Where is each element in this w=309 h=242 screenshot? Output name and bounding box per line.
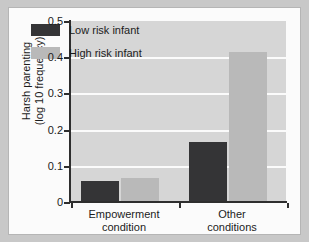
y-axis-tick-label: 0: [33, 197, 63, 208]
y-axis-tick-label: 0.1: [33, 161, 63, 172]
y-axis-tick: [64, 166, 70, 168]
legend-label-high-risk: High risk infant: [69, 47, 142, 59]
x-axis-category-label: Empowermentcondition: [70, 208, 178, 234]
bar-chart: Harsh parenting (log 10 frequency) Low r…: [9, 8, 302, 236]
x-axis-category-label-line1: Other: [178, 208, 286, 221]
bar-low-risk: [189, 142, 227, 202]
y-axis-tick: [64, 93, 70, 95]
y-axis-tick-label: 0.2: [33, 125, 63, 136]
y-axis-tick: [64, 130, 70, 132]
x-axis-category-label-line1: Empowerment: [70, 208, 178, 221]
x-axis-line: [69, 201, 287, 203]
y-axis-tick: [64, 21, 70, 23]
y-axis-tick-label: 0.4: [33, 52, 63, 63]
figure-card: Harsh parenting (log 10 frequency) Low r…: [8, 7, 301, 235]
x-axis-category-label: Otherconditions: [178, 208, 286, 234]
bar-high-risk: [121, 178, 159, 202]
y-axis-tick: [64, 57, 70, 59]
x-axis-category-label-line2: condition: [70, 221, 178, 234]
x-axis-tick: [287, 203, 289, 208]
y-axis-tick-label: 0.5: [33, 16, 63, 27]
y-axis-tick-label: 0.3: [33, 88, 63, 99]
bar-high-risk: [229, 52, 267, 202]
bar-low-risk: [81, 181, 119, 202]
x-axis-category-label-line2: conditions: [178, 221, 286, 234]
y-axis-tick: [64, 202, 70, 204]
legend-label-low-risk: Low risk infant: [69, 24, 139, 36]
